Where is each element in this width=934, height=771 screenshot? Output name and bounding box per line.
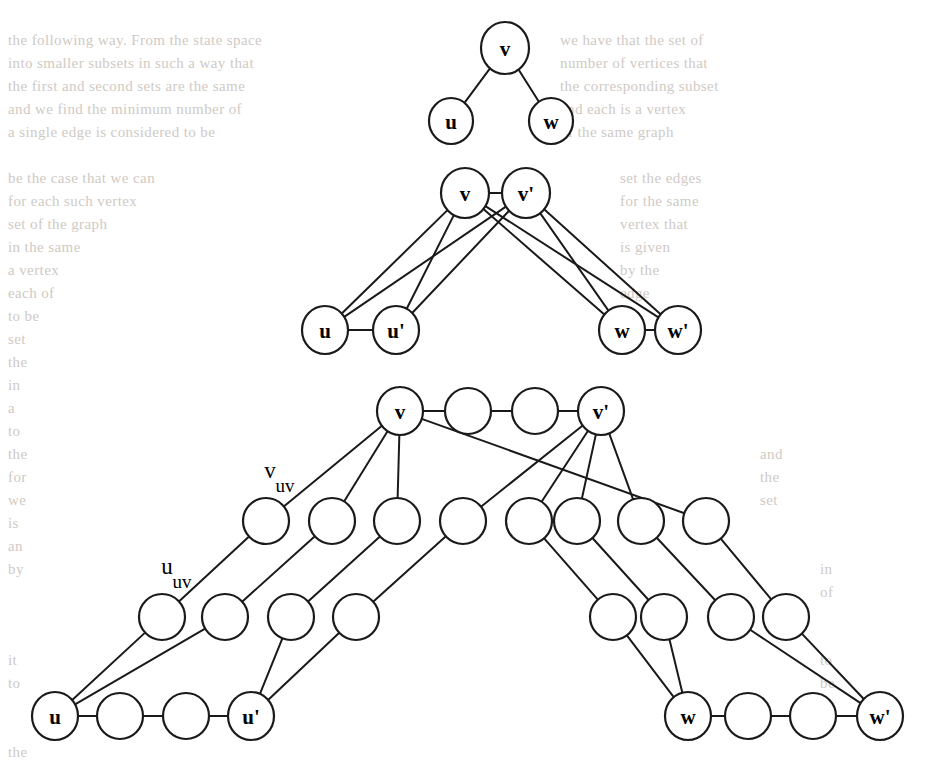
background-text-line: an <box>8 538 23 554</box>
node-circle <box>790 693 836 739</box>
figure-container: the following way. From the state spacei… <box>0 0 934 771</box>
graph-edge <box>721 539 772 600</box>
node-label: u <box>49 705 61 729</box>
graph-edge <box>544 538 598 599</box>
graph-node-unlabeled <box>268 594 314 640</box>
node-label: w' <box>870 705 891 729</box>
node-circle <box>763 594 809 640</box>
graph-edge <box>72 633 145 700</box>
graph-edge <box>308 536 380 601</box>
graph-edge <box>657 538 716 600</box>
graph-node-unlabeled <box>97 693 143 739</box>
background-text-line: to <box>8 423 20 439</box>
background-text-line: the <box>8 354 28 370</box>
node-circle <box>506 498 552 544</box>
node-circle <box>725 693 771 739</box>
graph-node-v-prime: v' <box>578 387 624 435</box>
background-text-line: set <box>760 492 778 508</box>
node-label: w <box>614 319 630 343</box>
graph-node-u: u <box>32 692 78 740</box>
graph-node-unlabeled <box>506 498 552 544</box>
graph-node-w: w <box>665 692 711 740</box>
background-text-line: and we find the minimum number of <box>8 101 242 117</box>
node-circle <box>333 594 379 640</box>
graph-node-u: u <box>302 306 348 354</box>
graph-node-unlabeled <box>139 594 185 640</box>
background-text-line: into smaller subsets in such a way that <box>8 55 254 71</box>
graph-node-unlabeled <box>641 594 687 640</box>
graph-node-unlabeled <box>554 498 600 544</box>
node-label: u' <box>387 319 405 343</box>
node-circle <box>139 594 185 640</box>
graph-node-unlabeled <box>243 498 289 544</box>
node-circle <box>309 498 355 544</box>
graph-node-unlabeled <box>163 693 209 739</box>
node-label: u <box>445 110 457 134</box>
background-text-line: to be <box>8 308 40 324</box>
graph-edge <box>464 68 490 103</box>
graph-edge <box>398 435 400 498</box>
graph-node-unlabeled <box>333 594 379 640</box>
node-label: u' <box>242 705 260 729</box>
graph-node-w-prime: w' <box>857 692 903 740</box>
node-circle <box>618 498 664 544</box>
background-text-line: by the <box>620 262 659 278</box>
graph-edge <box>284 426 382 507</box>
background-text-line: and each is a vertex <box>560 101 686 117</box>
graph-edge <box>592 538 648 600</box>
background-text-line: and <box>760 446 783 462</box>
background-text-line: the <box>8 744 28 760</box>
graph-edge <box>669 639 682 692</box>
node-circle <box>641 594 687 640</box>
node-label: v' <box>518 182 534 206</box>
background-text-line: the following way. From the state space <box>8 32 262 48</box>
node-label: w' <box>668 319 689 343</box>
graph-node-v-prime: v' <box>502 168 550 218</box>
graph-node-unlabeled <box>763 594 809 640</box>
background-showthrough-text: the following way. From the state spacei… <box>8 32 835 760</box>
background-text-line: edge <box>620 285 650 301</box>
graph-edge <box>342 210 448 313</box>
background-text-line: of the same graph <box>560 124 674 140</box>
graph-edge <box>519 69 539 101</box>
graph-node-unlabeled <box>618 498 664 544</box>
background-text-line: the corresponding subset <box>560 78 719 94</box>
graph-node-unlabeled <box>708 594 754 640</box>
node-circle <box>97 693 143 739</box>
graph-node-u: u <box>429 98 473 144</box>
background-text-line: for the same <box>620 193 699 209</box>
graph-edge <box>260 638 282 694</box>
node-circle <box>554 498 600 544</box>
graph-node-unlabeled <box>445 388 491 434</box>
background-text-line: set of the graph <box>8 216 107 232</box>
background-text-line: is given <box>620 239 670 255</box>
node-label: w <box>680 705 696 729</box>
node-circle <box>440 498 486 544</box>
lbl-v-uv: vuv <box>264 458 295 496</box>
graph-node-unlabeled <box>683 498 729 544</box>
graph-node-w: w <box>529 98 573 144</box>
node-circle <box>374 498 420 544</box>
graph-edge <box>481 426 583 507</box>
graph-node-unlabeled <box>790 693 836 739</box>
graph-edge <box>540 213 608 310</box>
background-text-line: is <box>8 515 19 531</box>
node-label: v <box>460 182 471 206</box>
background-text-line: be the case that we can <box>8 170 155 186</box>
external-label-subscript: uv <box>173 571 193 592</box>
background-text-line: a single edge is considered to be <box>8 124 215 140</box>
background-text-line: for <box>8 469 27 485</box>
graph-edge <box>344 431 387 501</box>
node-circle <box>512 388 558 434</box>
background-text-line: vertex that <box>620 216 689 232</box>
background-text-line: the first and second sets are the same <box>8 78 245 94</box>
background-text-line: the <box>8 446 28 462</box>
node-circle <box>590 594 636 640</box>
graph-edge <box>582 434 596 498</box>
node-label: v <box>395 400 406 424</box>
background-text-line: the <box>760 469 780 485</box>
graph-edge <box>750 630 860 703</box>
node-label: w <box>543 110 559 134</box>
background-text-line: in <box>8 377 21 393</box>
graph-figure-canvas: the following way. From the state spacei… <box>0 0 934 771</box>
